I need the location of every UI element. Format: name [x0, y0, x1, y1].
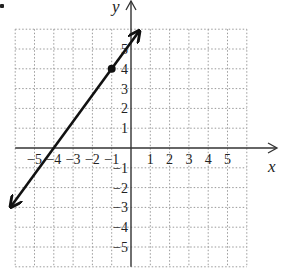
x-tick-label: 3 — [185, 152, 192, 167]
x-tick-label: 4 — [205, 152, 212, 167]
point-marker — [108, 65, 116, 73]
y-tick-label: −3 — [113, 200, 128, 215]
x-tick-label: 5 — [224, 152, 231, 167]
y-tick-label: 2 — [121, 101, 128, 116]
y-tick-label: 1 — [121, 121, 128, 136]
x-axis-label: x — [267, 157, 276, 176]
coordinate-plane: −5−4−3−2−112345−5−4−3−2−112345 x y — [0, 0, 283, 274]
y-tick-label: −1 — [113, 161, 128, 176]
y-tick-label: −2 — [113, 181, 128, 196]
x-tick-label: −5 — [27, 152, 42, 167]
x-tick-label: 2 — [166, 152, 173, 167]
y-tick-label: −5 — [113, 240, 128, 255]
x-tick-label: 1 — [147, 152, 154, 167]
y-axis-label: y — [110, 0, 120, 16]
y-tick-label: −4 — [113, 220, 128, 235]
y-tick-label: 4 — [121, 62, 128, 77]
x-tick-label: −2 — [85, 152, 100, 167]
y-tick-label: 3 — [121, 82, 128, 97]
x-tick-label: −3 — [66, 152, 81, 167]
